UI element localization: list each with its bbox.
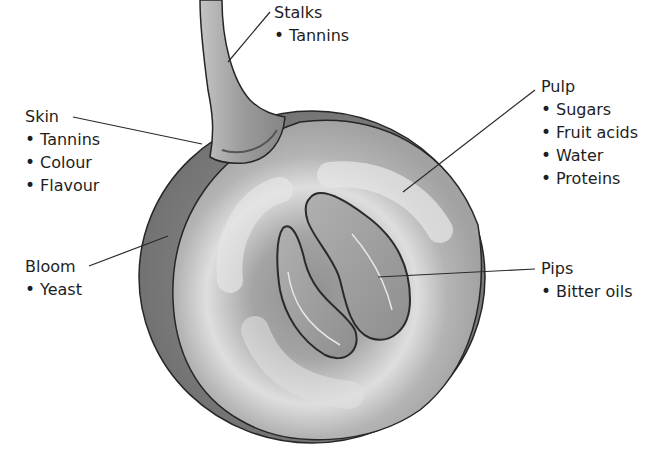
label-pulp-item: Sugars [541,98,638,121]
label-skin-title: Skin [25,106,100,128]
label-stalks-item: Tannins [274,24,349,47]
grape-cross-section-diagram [0,0,665,460]
label-skin-item: Flavour [25,174,100,197]
label-pips: Pips Bitter oils [541,258,633,303]
label-stalks-title: Stalks [274,2,349,24]
label-pulp-title: Pulp [541,76,638,98]
leader-pulp [403,90,535,192]
label-pulp: Pulp Sugars Fruit acids Water Proteins [541,76,638,190]
label-skin-item: Colour [25,151,100,174]
label-skin: Skin Tannins Colour Flavour [25,106,100,197]
label-bloom-title: Bloom [25,256,82,278]
grape-stalk [200,0,285,163]
label-stalks: Stalks Tannins [274,2,349,47]
label-bloom: Bloom Yeast [25,256,82,301]
label-pulp-item: Water [541,144,638,167]
label-pulp-item: Proteins [541,167,638,190]
label-pips-item: Bitter oils [541,280,633,303]
label-pips-title: Pips [541,258,633,280]
leader-stalks [228,12,270,62]
label-skin-item: Tannins [25,128,100,151]
label-pulp-item: Fruit acids [541,121,638,144]
label-bloom-item: Yeast [25,278,82,301]
